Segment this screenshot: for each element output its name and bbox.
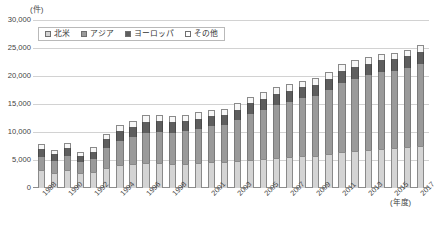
bar-segment-other xyxy=(260,92,267,99)
x-axis-tick-cell xyxy=(179,189,192,223)
bar-column[interactable] xyxy=(349,20,362,188)
bar-column[interactable] xyxy=(257,20,270,188)
bar-column[interactable] xyxy=(362,20,375,188)
stacked-bar[interactable] xyxy=(404,50,411,188)
bar-column[interactable] xyxy=(322,20,335,188)
bar-segment-other xyxy=(247,97,254,104)
bar-column[interactable] xyxy=(205,20,218,188)
stacked-bar[interactable] xyxy=(286,84,293,188)
bar-segment-europe xyxy=(208,116,215,126)
stacked-bar[interactable] xyxy=(129,121,136,188)
bar-segment-north-america xyxy=(391,148,398,188)
bar-column[interactable] xyxy=(283,20,296,188)
bar-segment-asia xyxy=(51,161,58,173)
stacked-bar[interactable] xyxy=(156,115,163,188)
bar-column[interactable] xyxy=(401,20,414,188)
bar-column[interactable] xyxy=(166,20,179,188)
stacked-bar[interactable] xyxy=(182,115,189,188)
stacked-bar[interactable] xyxy=(338,64,345,188)
bar-segment-asia xyxy=(90,159,97,172)
stacked-bar[interactable] xyxy=(260,92,267,188)
legend-item[interactable]: ヨーロッパ xyxy=(125,30,174,38)
stacked-bar[interactable] xyxy=(417,45,424,188)
bar-segment-other xyxy=(142,115,149,122)
bar-column[interactable] xyxy=(231,20,244,188)
bar-segment-asia xyxy=(312,96,319,155)
legend-item[interactable]: 北米 xyxy=(45,30,70,38)
bar-segment-asia xyxy=(208,126,215,162)
stacked-bar[interactable] xyxy=(142,115,149,188)
x-axis-tick-cell xyxy=(322,189,335,223)
stacked-bar[interactable] xyxy=(247,97,254,188)
bar-column[interactable] xyxy=(218,20,231,188)
x-axis-tick-cell: 1988 xyxy=(35,189,48,223)
bar-column[interactable] xyxy=(87,20,100,188)
bar-column[interactable] xyxy=(140,20,153,188)
bar-segment-asia xyxy=(142,133,149,163)
stacked-bar[interactable] xyxy=(195,112,202,188)
bar-column[interactable] xyxy=(126,20,139,188)
bar-column[interactable] xyxy=(388,20,401,188)
bar-segment-north-america xyxy=(195,163,202,188)
stacked-bar[interactable] xyxy=(299,81,306,188)
stacked-bar[interactable] xyxy=(38,144,45,188)
bar-column[interactable] xyxy=(335,20,348,188)
bar-segment-asia xyxy=(247,114,254,160)
x-axis-tick-cell xyxy=(126,189,139,223)
bar-column[interactable] xyxy=(375,20,388,188)
bar-segment-other xyxy=(404,50,411,57)
legend-swatch-icon xyxy=(45,31,51,37)
stacked-bar[interactable] xyxy=(64,143,71,188)
bar-segment-europe xyxy=(156,121,163,132)
stacked-bar[interactable] xyxy=(365,57,372,188)
bar-column[interactable] xyxy=(48,20,61,188)
stacked-bar[interactable] xyxy=(391,53,398,188)
bar-segment-europe xyxy=(90,152,97,159)
bar-column[interactable] xyxy=(270,20,283,188)
bar-column[interactable] xyxy=(192,20,205,188)
bar-segment-other xyxy=(351,60,358,67)
bar-segment-asia xyxy=(299,98,306,156)
x-axis-tick-cell: 1998 xyxy=(166,189,179,223)
bar-column[interactable] xyxy=(244,20,257,188)
legend-item[interactable]: その他 xyxy=(185,30,218,38)
y-axis-tick-label: 30,000 xyxy=(8,16,31,24)
bar-column[interactable] xyxy=(61,20,74,188)
bar-segment-asia xyxy=(391,71,398,148)
bar-column[interactable] xyxy=(153,20,166,188)
x-axis-tick-cell: 2009 xyxy=(309,189,322,223)
stacked-bar[interactable] xyxy=(273,87,280,188)
stacked-bar[interactable] xyxy=(234,103,241,188)
bar-segment-asia xyxy=(156,132,163,163)
x-axis-tick-cell xyxy=(192,189,205,223)
bar-segment-europe xyxy=(312,85,319,96)
stacked-bar[interactable] xyxy=(378,54,385,188)
stacked-bar[interactable] xyxy=(312,78,319,188)
bar-column[interactable] xyxy=(414,20,427,188)
x-axis-tick-cell: 2005 xyxy=(257,189,270,223)
bar-segment-other xyxy=(417,45,424,52)
bar-segment-europe xyxy=(299,87,306,98)
stacked-bar[interactable] xyxy=(351,60,358,188)
bar-column[interactable] xyxy=(309,20,322,188)
stacked-bar[interactable] xyxy=(208,110,215,188)
stacked-bar[interactable] xyxy=(221,109,228,189)
bar-segment-north-america xyxy=(417,146,424,188)
legend-item[interactable]: アジア xyxy=(81,30,114,38)
bar-column[interactable] xyxy=(179,20,192,188)
bar-column[interactable] xyxy=(74,20,87,188)
bar-column[interactable] xyxy=(100,20,113,188)
bar-segment-north-america xyxy=(169,164,176,188)
bar-column[interactable] xyxy=(296,20,309,188)
bar-segment-asia xyxy=(116,141,123,165)
bar-segment-asia xyxy=(286,102,293,157)
bar-column[interactable] xyxy=(35,20,48,188)
stacked-bar[interactable] xyxy=(325,72,332,188)
stacked-bar[interactable] xyxy=(169,116,176,188)
stacked-bar[interactable] xyxy=(90,147,97,188)
bar-series-container xyxy=(33,20,429,188)
stacked-bar[interactable] xyxy=(116,125,123,188)
bar-column[interactable] xyxy=(113,20,126,188)
bar-segment-europe xyxy=(38,149,45,156)
bar-segment-north-america xyxy=(338,152,345,188)
